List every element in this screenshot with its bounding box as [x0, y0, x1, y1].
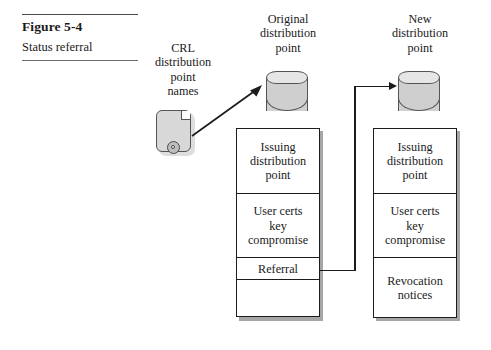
table-cell: Revocationnotices: [373, 257, 457, 318]
table-cell: [236, 279, 320, 317]
new-distribution-point-label: Newdistributionpoint: [370, 12, 470, 55]
referral-connector-arrowhead-icon: [389, 82, 397, 90]
original-crl-table: IssuingdistributionpointUser certskeycom…: [236, 128, 320, 317]
table-cell: Referral: [236, 257, 320, 280]
crl-scroll-icon: [156, 110, 194, 156]
referral-connector-segment-2: [354, 86, 356, 270]
original-distribution-point-label: Originaldistributionpoint: [238, 12, 338, 55]
table-cell: Issuingdistributionpoint: [373, 128, 457, 194]
table-cell: User certskeycompromise: [236, 193, 320, 259]
new-distribution-point-cylinder-icon: [398, 70, 442, 118]
figure-title: Status referral: [22, 38, 138, 60]
cylinder-top: [398, 71, 440, 84]
cylinder-top: [266, 71, 308, 84]
figure-canvas: Figure 5-4 Status referral CRLdistributi…: [0, 0, 491, 350]
scroll-seal-icon: [167, 141, 180, 154]
table-cell: Issuingdistributionpoint: [236, 128, 320, 194]
figure-number: Figure 5-4: [22, 15, 138, 38]
referral-connector-segment-3: [354, 86, 390, 88]
table-cell: User certskeycompromise: [373, 193, 457, 259]
figure-caption-block: Figure 5-4 Status referral: [22, 14, 138, 61]
caption-rule-bottom: [22, 60, 138, 61]
new-crl-table: IssuingdistributionpointUser certskeycom…: [373, 128, 457, 318]
referral-connector-segment-1: [320, 270, 356, 272]
original-distribution-point-cylinder-icon: [266, 70, 310, 118]
scroll-folded-corner-icon: [181, 111, 190, 120]
